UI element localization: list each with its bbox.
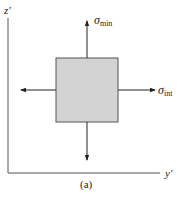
sigma-min-label: σmin [94,14,112,28]
z-axis-label: z′ [4,5,11,16]
stress-element-square [56,58,118,122]
figure-caption: (a) [80,179,92,190]
sigma-min-subscript: min [100,19,112,28]
sigma-int-subscript: int [164,89,172,98]
stress-element-diagram [0,0,182,197]
sigma-int-label: σint [158,84,172,98]
y-axis-label: y′ [165,168,172,179]
